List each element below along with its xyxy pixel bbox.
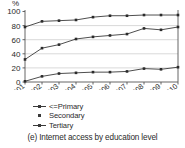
data-point-marker	[177, 14, 180, 17]
data-point-marker	[92, 36, 95, 39]
legend-label-primary: <=Primary	[49, 103, 83, 111]
data-point-marker	[75, 19, 78, 22]
x-tick-label-2006: 2006	[93, 82, 111, 90]
x-tick-label-2005: 2005	[76, 82, 94, 90]
x-tick-label-2004: 2004	[59, 82, 77, 90]
legend-item-secondary: Secondary	[33, 112, 84, 121]
legend-marker-secondary-icon	[33, 113, 46, 120]
data-point-marker	[177, 26, 180, 29]
y-tick-label-40: 40	[12, 50, 21, 59]
x-tick-label-2002: 2002	[25, 82, 43, 90]
data-point-marker	[160, 68, 163, 71]
legend: <=Primary Secondary Tertiary	[0, 102, 185, 130]
data-point-marker	[143, 67, 146, 70]
series-line	[25, 67, 178, 81]
data-point-marker	[143, 27, 146, 30]
y-tick-label-100: 100	[7, 8, 21, 16]
series-primary	[24, 66, 180, 83]
data-point-marker	[143, 14, 146, 17]
series-tertiary	[24, 14, 180, 29]
series-secondary	[24, 26, 180, 61]
data-point-marker	[24, 26, 27, 29]
legend-marker-primary-icon	[33, 103, 46, 110]
data-point-marker	[109, 34, 112, 37]
x-tick-label-2008: 2008	[127, 82, 145, 90]
plot-area: 020406080100 200120022003200420052006200…	[0, 8, 185, 90]
data-point-marker	[160, 14, 163, 17]
y-tick-labels: 020406080100	[7, 8, 21, 87]
data-series-layer	[24, 14, 180, 83]
data-point-marker	[41, 20, 44, 23]
x-tick-label-2007: 2007	[110, 82, 128, 90]
legend-item-primary: <=Primary	[33, 102, 83, 111]
figure-caption: (e) Internet access by education level	[0, 133, 185, 143]
data-point-marker	[75, 38, 78, 41]
series-line	[25, 15, 178, 27]
legend-item-tertiary: Tertiary	[33, 121, 73, 130]
data-point-marker	[58, 43, 61, 46]
data-point-marker	[109, 14, 112, 17]
x-tick-label-2003: 2003	[42, 82, 60, 90]
data-point-marker	[58, 19, 61, 22]
data-point-marker	[177, 66, 180, 69]
x-tick-label-2009: 2009	[144, 82, 162, 90]
data-point-marker	[92, 71, 95, 74]
y-tick-label-60: 60	[12, 36, 21, 45]
data-point-marker	[160, 29, 163, 32]
data-point-marker	[75, 72, 78, 75]
legend-label-tertiary: Tertiary	[49, 122, 73, 130]
series-line	[25, 27, 178, 59]
data-point-marker	[41, 47, 44, 50]
data-point-marker	[24, 58, 27, 61]
data-point-marker	[109, 71, 112, 74]
legend-marker-tertiary-icon	[33, 122, 46, 129]
data-point-marker	[126, 70, 129, 73]
data-point-marker	[41, 75, 44, 78]
x-tick-label-2010: 2010	[161, 82, 179, 90]
data-point-marker	[92, 16, 95, 19]
data-point-marker	[126, 14, 129, 17]
y-tick-label-80: 80	[12, 22, 21, 31]
figure-internet-access-by-education-level: % 020406080100 2001200220032004200520062…	[0, 0, 185, 148]
legend-label-secondary: Secondary	[49, 112, 84, 120]
x-tick-labels: 2001200220032004200520062007200820092010	[8, 82, 179, 90]
data-point-marker	[58, 72, 61, 75]
y-axis-unit-label: %	[12, 0, 19, 8]
data-point-marker	[24, 80, 27, 83]
y-tick-label-20: 20	[12, 64, 21, 73]
data-point-marker	[126, 33, 129, 36]
line-chart-svg: 020406080100 200120022003200420052006200…	[0, 8, 185, 90]
